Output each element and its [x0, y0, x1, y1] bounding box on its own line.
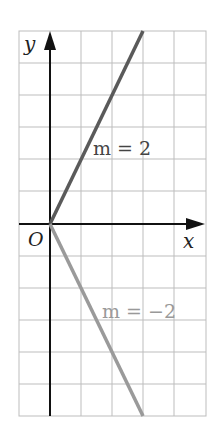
y-axis-arrow-icon: [44, 31, 56, 50]
negative-slope-label: m = −2: [102, 300, 176, 322]
y-axis-label: y: [23, 32, 36, 56]
slope-diagram: y x O m = 2 m = −2: [0, 0, 220, 428]
x-axis-label: x: [183, 229, 194, 253]
positive-slope-label: m = 2: [93, 137, 151, 159]
origin-label: O: [28, 228, 44, 250]
